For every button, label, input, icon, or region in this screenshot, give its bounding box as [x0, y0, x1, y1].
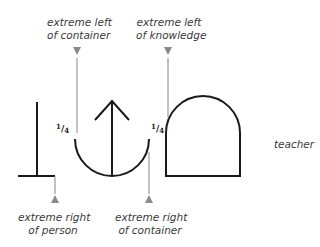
- label-line: extreme left: [136, 16, 202, 29]
- container-glyph: [75, 101, 149, 176]
- label-line: extreme right: [18, 211, 88, 224]
- label-line: of container: [47, 29, 109, 42]
- knowledge-dome-glyph: [166, 96, 240, 176]
- label-line: extreme right: [115, 211, 185, 224]
- fraction-numerator: 1: [56, 122, 61, 131]
- diagram-canvas: extreme left of container extreme left o…: [0, 0, 320, 247]
- pointer-right-of-container: [145, 152, 153, 203]
- label-extreme-left-of-container: extreme left of container: [47, 16, 109, 42]
- pointer-left-of-container: [73, 47, 81, 133]
- label-line: of container: [115, 224, 185, 237]
- label-extreme-left-of-knowledge: extreme left of knowledge: [136, 16, 202, 42]
- label-teacher: teacher: [272, 138, 316, 151]
- fraction-numerator: 1: [151, 122, 156, 131]
- fraction-left: 1/4: [56, 122, 69, 135]
- pointer-left-of-knowledge: [164, 47, 172, 117]
- label-extreme-right-of-container: extreme right of container: [115, 211, 185, 237]
- label-line: of person: [18, 224, 88, 237]
- fraction-denominator: 4: [159, 126, 164, 135]
- fraction-right: 1/4: [151, 122, 164, 135]
- fraction-denominator: 4: [64, 126, 69, 135]
- label-line: extreme left: [47, 16, 109, 29]
- label-line: of knowledge: [136, 29, 202, 42]
- label-extreme-right-of-person: extreme right of person: [18, 211, 88, 237]
- person-glyph: [18, 102, 55, 176]
- pointer-right-of-person: [51, 176, 59, 203]
